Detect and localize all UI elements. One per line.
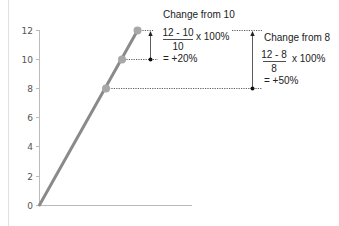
annotation-multiplier: x 100% (196, 31, 229, 42)
annotation-numerator: 12 - 8 (261, 49, 287, 60)
annotation-title: Change from 8 (264, 32, 331, 43)
data-point-12 (134, 27, 142, 35)
data-point-10 (118, 56, 126, 64)
y-tick-label: 2 (27, 172, 33, 182)
annotation-multiplier: x 100% (292, 53, 325, 64)
annotation-change-from-8: Change from 8 12 - 8 8 x 100% = +50% (261, 32, 330, 86)
y-tick-label: 4 (27, 142, 33, 152)
annotation-denominator: 8 (271, 63, 277, 74)
data-point-8 (102, 85, 110, 93)
y-tick-label: 6 (27, 113, 33, 123)
y-tick-label: 0 (27, 201, 33, 211)
percent-change-chart: 12 10 8 6 4 2 0 Change from 10 12 - 10 1… (0, 0, 339, 226)
annotation-result: = +20% (163, 53, 198, 64)
arrow-change-from-8 (250, 31, 254, 91)
y-tick-label: 12 (22, 26, 33, 36)
annotation-denominator: 10 (172, 41, 184, 52)
annotation-change-from-10: Change from 10 12 - 10 10 x 100% = +20% (162, 9, 235, 64)
arrow-change-from-10 (148, 31, 152, 62)
annotation-numerator: 12 - 10 (162, 27, 194, 38)
y-tick-label: 8 (27, 84, 33, 94)
y-tick-label: 10 (22, 55, 34, 65)
y-ticks: 12 10 8 6 4 2 0 (22, 26, 39, 211)
annotation-result: = +50% (264, 75, 299, 86)
annotation-title: Change from 10 (163, 9, 235, 20)
